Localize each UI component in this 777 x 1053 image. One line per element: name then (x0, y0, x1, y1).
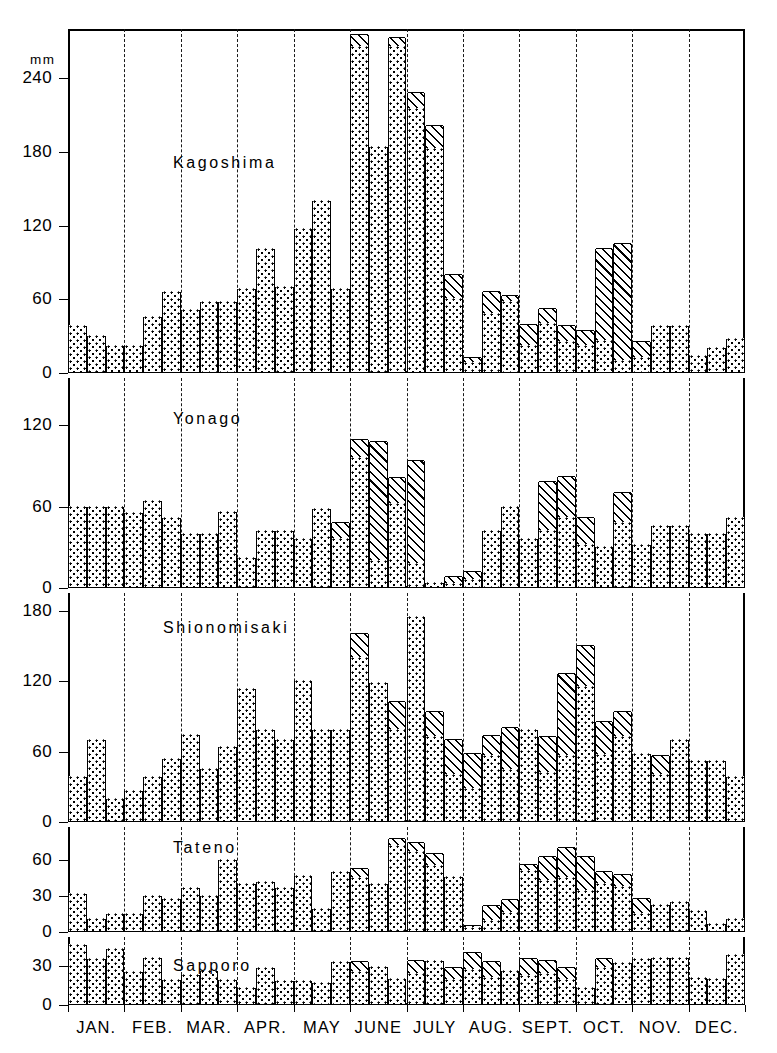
bar-segment-dotted (727, 517, 744, 587)
bar (482, 292, 501, 373)
bar-segment-dotted (727, 918, 744, 931)
bar (106, 949, 125, 1005)
bar (407, 843, 426, 932)
y-axis-label: 240 (0, 69, 52, 86)
bar-segment-dotted (708, 533, 725, 587)
bar-segment-dotted (708, 760, 725, 821)
bar-segment-dotted (464, 788, 481, 821)
plot-area (68, 378, 745, 588)
bar (689, 911, 708, 932)
bar-segment-hatched (614, 874, 631, 886)
bar (256, 531, 275, 588)
y-axis-label: 120 (0, 217, 52, 234)
bar-segment-dotted (539, 973, 556, 1004)
bar-segment-dotted (257, 729, 274, 821)
bar (538, 309, 557, 373)
bar-segment-dotted (257, 248, 274, 372)
bar (576, 988, 595, 1005)
panel-title-tateno: Tateno (173, 839, 237, 857)
bar (350, 962, 369, 1005)
bar (256, 882, 275, 932)
bar-segment-dotted (445, 583, 462, 587)
bar-segment-dotted (313, 908, 330, 931)
bar-segment-hatched (445, 739, 462, 774)
bar (519, 730, 538, 822)
bar (369, 147, 388, 373)
bar-segment-dotted (219, 746, 236, 821)
bar-segment-dotted (520, 870, 537, 931)
bar-segment-dotted (163, 979, 180, 1004)
x-axis-month-july: JULY (413, 1018, 457, 1037)
bar-segment-hatched (445, 576, 462, 583)
bar-segment-hatched (370, 441, 387, 560)
bar-segment-dotted (408, 851, 425, 931)
bar-segment-dotted (596, 340, 613, 372)
bar-segment-dotted (107, 798, 124, 821)
bar-segment-dotted (483, 977, 500, 1004)
bar-segment-dotted (426, 865, 443, 931)
bar-segment-dotted (633, 958, 650, 1004)
bar-segment-dotted (577, 345, 594, 372)
bar-segment-dotted (539, 323, 556, 372)
bar (87, 336, 106, 373)
bar (576, 331, 595, 373)
bar (519, 959, 538, 1005)
bar-segment-dotted (708, 978, 725, 1004)
bar-segment-dotted (332, 538, 349, 587)
bar (407, 461, 426, 588)
y-axis-tick (59, 425, 68, 426)
bar-segment-dotted (163, 291, 180, 372)
bar-segment-dotted (671, 901, 688, 931)
bar-segment-dotted (313, 982, 330, 1004)
bar-segment-dotted (389, 845, 406, 931)
bar-segment-dotted (370, 560, 387, 587)
bar (670, 326, 689, 373)
bar-segment-dotted (408, 616, 425, 822)
bar-segment-hatched (539, 308, 556, 323)
bar-segment-hatched (614, 243, 631, 360)
bar (632, 342, 651, 373)
bar (237, 689, 256, 822)
bar-segment-dotted (276, 887, 293, 931)
bar-segment-hatched (652, 755, 669, 774)
bar (482, 962, 501, 1005)
bar (68, 894, 87, 932)
bar-segment-dotted (163, 758, 180, 821)
bar-segment-dotted (426, 582, 443, 587)
bar (181, 310, 200, 373)
bar (670, 526, 689, 588)
bar-segment-dotted (182, 734, 199, 821)
bar (218, 302, 237, 373)
bar-segment-dotted (464, 927, 481, 931)
bar-segment-hatched (558, 476, 575, 517)
bar-segment-dotted (408, 973, 425, 1004)
bar-segment-dotted (652, 904, 669, 931)
y-axis-label: 0 (0, 364, 52, 381)
x-axis-tick (576, 1005, 577, 1012)
bar-segment-dotted (332, 961, 349, 1004)
bar-segment-dotted (257, 967, 274, 1004)
bar-segment-dotted (389, 978, 406, 1004)
bar-segment-dotted (389, 729, 406, 821)
bar (632, 899, 651, 932)
bar-segment-dotted (483, 755, 500, 821)
bar (501, 900, 520, 932)
bar-segment-hatched (614, 492, 631, 522)
bar (444, 740, 463, 822)
bar (501, 296, 520, 373)
bar (707, 348, 726, 373)
bar-segment-dotted (483, 920, 500, 931)
month-divider-line (463, 378, 464, 588)
bar-segment-dotted (502, 301, 519, 372)
bar (162, 980, 181, 1005)
bar-segment-dotted (596, 546, 613, 587)
bar-segment-dotted (351, 877, 368, 931)
bar-segment-dotted (125, 512, 142, 587)
bar (275, 740, 294, 822)
bar (425, 854, 444, 932)
bar (200, 896, 219, 932)
bar-segment-dotted (125, 790, 142, 821)
bar (557, 848, 576, 932)
bar-segment-dotted (445, 298, 462, 372)
bar-segment-dotted (201, 970, 218, 1004)
